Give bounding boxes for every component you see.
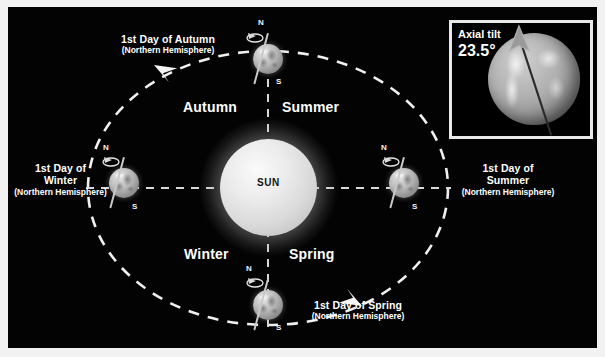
inset-text: Axial tilt 23.5° [458, 29, 501, 59]
inset-label-degrees: 23.5° [458, 42, 501, 59]
callout-winter-subtitle: (Northern Hemisphere) [8, 187, 113, 197]
axial-tilt-inset: Axial tilt 23.5° [449, 20, 593, 139]
diagram-canvas: SUN N S 1st Day of Autumn (Northern Hemi… [8, 7, 597, 348]
pole-label-south-spring: S [276, 324, 281, 332]
pole-label-south-summer: S [412, 203, 417, 211]
rotation-arrow-summer [380, 155, 402, 167]
sun-label: SUN [220, 177, 317, 188]
inset-axis-line [519, 36, 551, 135]
callout-summer: 1st Day of Summer (Northern Hemisphere) [428, 162, 588, 197]
orbit-direction-arrow-upper-left [154, 60, 180, 84]
pole-label-north-winter: N [103, 144, 109, 152]
callout-winter-title2: Winter [8, 174, 113, 186]
rotation-arrow-autumn [244, 31, 266, 43]
callout-spring-subtitle: (Northern Hemisphere) [283, 311, 433, 321]
callout-summer-subtitle: (Northern Hemisphere) [428, 187, 588, 197]
callout-summer-title: 1st Day of [428, 162, 588, 174]
season-label-spring: Spring [289, 246, 335, 262]
callout-winter-title: 1st Day of [8, 162, 113, 174]
callout-autumn: 1st Day of Autumn (Northern Hemisphere) [92, 33, 244, 55]
callout-spring-title: 1st Day of Spring [283, 299, 433, 311]
pole-label-north-spring: N [246, 265, 252, 273]
rotation-arrow-spring [244, 276, 266, 288]
season-label-winter: Winter [184, 246, 229, 262]
seasons-diagram-image: SUN N S 1st Day of Autumn (Northern Hemi… [0, 0, 605, 357]
season-label-autumn: Autumn [183, 99, 237, 115]
season-label-summer: Summer [282, 99, 339, 115]
callout-summer-title2: Summer [428, 174, 588, 186]
callout-autumn-subtitle: (Northern Hemisphere) [92, 45, 244, 55]
inset-axis-arrowhead [510, 26, 530, 51]
pole-label-south-autumn: S [276, 78, 281, 86]
pole-label-north-autumn: N [258, 19, 264, 27]
inset-label-axial-tilt: Axial tilt [458, 29, 501, 41]
pole-label-south-winter: S [132, 203, 137, 211]
callout-autumn-title: 1st Day of Autumn [92, 33, 244, 45]
pole-label-north-summer: N [381, 144, 387, 152]
callout-spring: 1st Day of Spring (Northern Hemisphere) [283, 299, 433, 321]
callout-winter: 1st Day of Winter (Northern Hemisphere) [8, 162, 113, 197]
